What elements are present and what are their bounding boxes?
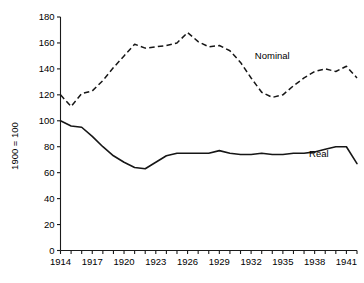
y-tick-label: 180	[39, 11, 55, 22]
y-tick-label: 120	[39, 89, 55, 100]
x-tick-label: 1917	[82, 256, 103, 267]
x-axis-tick-labels: 1914191719201923192619291932193519381941	[50, 256, 357, 267]
x-tick-label: 1941	[336, 256, 357, 267]
y-tick-label: 0	[49, 245, 54, 256]
y-tick-label: 40	[44, 193, 55, 204]
series-line-nominal	[61, 33, 358, 107]
chart-axes	[61, 17, 358, 251]
series-label-nominal: Nominal	[255, 50, 290, 61]
y-tick-label: 20	[44, 219, 55, 230]
x-tick-label: 1914	[50, 256, 71, 267]
series-label-real: Real	[309, 148, 329, 159]
x-tick-label: 1923	[145, 256, 166, 267]
x-tick-label: 1920	[113, 256, 134, 267]
y-tick-label: 60	[44, 167, 55, 178]
y-tick-label: 80	[44, 141, 55, 152]
series-annotations: NominalReal	[255, 50, 329, 160]
x-tick-label: 1935	[272, 256, 293, 267]
y-axis-title: 1900 = 100	[9, 122, 20, 170]
chart-container: 020406080100120140160180 191419171920192…	[0, 0, 364, 283]
x-tick-label: 1929	[209, 256, 230, 267]
y-tick-label: 100	[39, 115, 55, 126]
x-tick-label: 1938	[304, 256, 325, 267]
y-tick-label: 140	[39, 63, 55, 74]
x-tick-label: 1932	[241, 256, 262, 267]
series-line-real	[61, 121, 358, 169]
line-chart: 020406080100120140160180 191419171920192…	[0, 0, 364, 283]
y-tick-label: 160	[39, 37, 55, 48]
y-axis-tick-labels: 020406080100120140160180	[39, 11, 55, 256]
x-tick-label: 1926	[177, 256, 198, 267]
